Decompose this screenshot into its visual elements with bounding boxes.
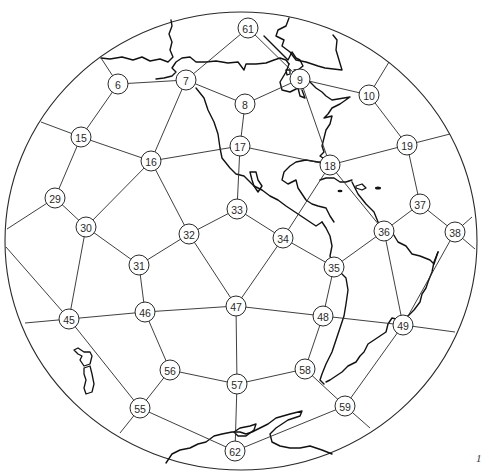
node-label: 6 [115, 79, 121, 91]
new-zealand-north [74, 348, 92, 366]
node-label: 10 [363, 90, 375, 102]
node-label: 56 [164, 365, 176, 377]
edge-49-59 [345, 325, 403, 406]
edge-30-45 [69, 227, 86, 319]
node-label: 32 [183, 229, 195, 241]
geodesic-grid-diagram: 6167891015161718192930313233343536373845… [0, 0, 489, 475]
edge-7-16 [151, 80, 186, 161]
north-america-west-coast [196, 88, 322, 226]
node-label: 9 [297, 74, 303, 86]
node-45: 45 [59, 309, 79, 329]
node-label: 57 [231, 379, 243, 391]
small-island [286, 70, 290, 75]
node-label: 35 [328, 262, 340, 274]
puerto-rico [375, 187, 381, 190]
node-49: 49 [393, 315, 413, 335]
node-label: 18 [324, 160, 336, 172]
new-zealand-south [84, 366, 94, 394]
node-56: 56 [160, 360, 180, 380]
edge-46-47 [145, 306, 236, 312]
edge-15-16 [81, 137, 151, 161]
node-label: 34 [277, 233, 289, 245]
node-59: 59 [335, 396, 355, 416]
node-label: 49 [397, 320, 409, 332]
node-label: 55 [134, 403, 146, 415]
baja-california [250, 172, 262, 192]
node-label: 62 [229, 446, 241, 458]
edge-32-47 [189, 234, 236, 306]
globe-outline [5, 12, 477, 470]
node-33: 33 [227, 199, 247, 219]
node-label: 37 [414, 199, 426, 211]
node-34: 34 [273, 228, 293, 248]
node-37: 37 [410, 194, 430, 214]
edge-9-18 [300, 79, 330, 165]
north-america-east-coast [310, 82, 350, 160]
edge-34-47 [236, 238, 283, 306]
edge-7-61 [186, 28, 248, 80]
node-label: 58 [299, 364, 311, 376]
edge-59-62 [235, 406, 345, 451]
hispaniola [356, 184, 366, 190]
edge-16-17 [151, 146, 240, 161]
edge-18-34 [283, 165, 330, 238]
node-48: 48 [313, 306, 333, 326]
node-17: 17 [230, 136, 250, 156]
node-label: 19 [401, 140, 413, 152]
edge-16-32 [151, 161, 189, 234]
edge-45-55 [69, 319, 140, 408]
node-label: 30 [80, 222, 92, 234]
edge-36-49 [384, 231, 403, 325]
node-19: 19 [397, 135, 417, 155]
siberia-coast [101, 20, 173, 62]
south-america-west-coast [320, 222, 348, 384]
node-label: 36 [378, 226, 390, 238]
edge-9-10 [300, 79, 369, 95]
node-7: 7 [176, 70, 196, 90]
node-label: 45 [63, 314, 75, 326]
greenland-coast [276, 18, 342, 70]
node-8: 8 [235, 94, 255, 114]
node-label: 59 [339, 401, 351, 413]
node-30: 30 [76, 217, 96, 237]
node-61: 61 [238, 18, 258, 38]
node-label: 7 [183, 75, 189, 87]
edge-17-18 [240, 146, 330, 165]
node-32: 32 [179, 224, 199, 244]
cuba [320, 178, 352, 182]
node-label: 46 [139, 307, 151, 319]
edge-45-46 [69, 312, 145, 319]
node-label: 31 [133, 260, 145, 272]
alaska-canada-coast [156, 57, 289, 79]
node-label: 48 [317, 311, 329, 323]
node-label: 61 [242, 23, 254, 35]
figure-mark: 1 [476, 452, 482, 464]
node-label: 33 [231, 204, 243, 216]
node-46: 46 [135, 302, 155, 322]
node-15: 15 [71, 127, 91, 147]
node-55: 55 [130, 398, 150, 418]
edge-16-30 [86, 161, 151, 227]
node-58: 58 [295, 359, 315, 379]
edge-47-57 [236, 306, 237, 384]
node-29: 29 [45, 188, 65, 208]
node-label: 29 [49, 193, 61, 205]
node-label: 15 [75, 132, 87, 144]
node-label: 38 [449, 227, 461, 239]
node-label: 47 [230, 301, 242, 313]
node-36: 36 [374, 221, 394, 241]
grid-nodes: 6167891015161718192930313233343536373845… [45, 18, 465, 461]
node-57: 57 [227, 374, 247, 394]
node-31: 31 [129, 255, 149, 275]
node-38: 38 [445, 222, 465, 242]
node-47: 47 [226, 296, 246, 316]
node-label: 17 [234, 141, 246, 153]
node-18: 18 [320, 155, 340, 175]
jamaica [338, 190, 343, 193]
node-label: 16 [145, 156, 157, 168]
antarctica-coast [166, 411, 332, 463]
edge-55-62 [140, 408, 235, 451]
node-10: 10 [359, 85, 379, 105]
edge-18-36 [330, 165, 384, 231]
node-6: 6 [108, 74, 128, 94]
